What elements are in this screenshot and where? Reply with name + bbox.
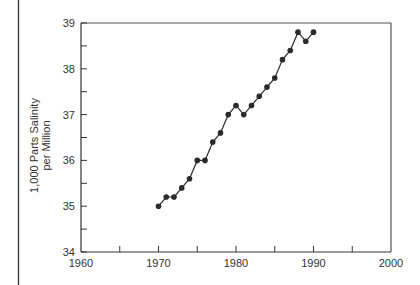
data-point: [249, 103, 255, 109]
salinity-line-chart: 343536373839 19601970198019902000 1,000 …: [0, 0, 420, 285]
data-point: [233, 103, 239, 109]
data-point: [218, 130, 224, 136]
x-tick-label: 2000: [379, 257, 403, 269]
data-point: [241, 112, 247, 118]
plot-frame: [81, 23, 391, 252]
data-point: [202, 158, 208, 164]
data-point: [156, 203, 162, 209]
data-point: [194, 158, 200, 164]
data-point: [187, 176, 193, 182]
y-tick-label: 35: [63, 200, 75, 212]
data-point: [287, 48, 293, 54]
y-axis: 343536373839: [63, 17, 87, 258]
data-point: [295, 29, 301, 35]
y-axis-title-line: 1,000 Parts Salinity: [28, 98, 40, 193]
data-point: [210, 139, 216, 145]
x-tick-label: 1970: [146, 257, 170, 269]
data-point: [256, 93, 262, 99]
data-point: [311, 29, 317, 35]
x-tick-label: 1980: [224, 257, 248, 269]
data-point: [179, 185, 185, 191]
y-axis-title: 1,000 Parts Salinityper Million: [28, 98, 52, 193]
y-tick-label: 36: [63, 154, 75, 166]
data-point: [225, 112, 231, 118]
y-tick-label: 39: [63, 17, 75, 29]
series-line: [159, 32, 314, 206]
data-point: [272, 75, 278, 81]
x-tick-label: 1990: [301, 257, 325, 269]
y-tick-label: 38: [63, 63, 75, 75]
data-point: [303, 39, 309, 45]
y-axis-title-line: per Million: [40, 120, 52, 170]
data-point: [163, 194, 169, 200]
y-tick-label: 37: [63, 109, 75, 121]
data-point: [171, 194, 177, 200]
data-point: [280, 57, 286, 63]
x-axis: 19601970198019902000: [69, 246, 403, 269]
x-tick-label: 1960: [69, 257, 93, 269]
data-series: [156, 29, 317, 209]
data-point: [264, 84, 270, 90]
